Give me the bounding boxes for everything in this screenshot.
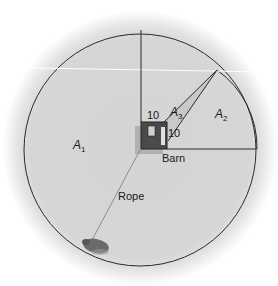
barn bbox=[135, 122, 167, 154]
label-rope: Rope bbox=[118, 190, 144, 202]
label-barn: Barn bbox=[162, 152, 185, 164]
label-barn-side-top: 10 bbox=[147, 109, 159, 121]
barn-rope-diagram: A1 A2 A3 10 10 Barn Rope bbox=[0, 0, 278, 286]
diagram-canvas: A1 A2 A3 10 10 Barn Rope bbox=[0, 0, 278, 286]
barn-door-icon bbox=[148, 126, 155, 136]
label-barn-side-right: 10 bbox=[168, 127, 180, 139]
barn-side-wall bbox=[161, 127, 165, 145]
